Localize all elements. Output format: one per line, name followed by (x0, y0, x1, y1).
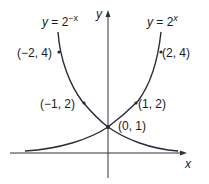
curve-exp-decay (58, 32, 178, 151)
point-label: (1, 2) (138, 97, 166, 111)
point-label: (2, 4) (162, 46, 190, 60)
y-axis-arrow-icon (106, 10, 111, 17)
x-axis-label: x (184, 157, 192, 171)
label-exp-decay: y = 2−x (41, 13, 79, 29)
point-label: (−2, 4) (17, 46, 52, 60)
point-marker (82, 101, 85, 104)
exponential-graph: y = 2−x y = 2x y x (−2, 4) (−1, 2) (0, 1… (0, 0, 209, 184)
y-axis-label: y (95, 7, 103, 21)
x-axis-arrow-icon (180, 151, 187, 156)
point-label: (0, 1) (118, 119, 146, 133)
point-marker (106, 125, 110, 129)
point-label: (−1, 2) (40, 97, 75, 111)
point-marker (57, 50, 60, 53)
label-exp-growth: y = 2x (146, 13, 178, 29)
